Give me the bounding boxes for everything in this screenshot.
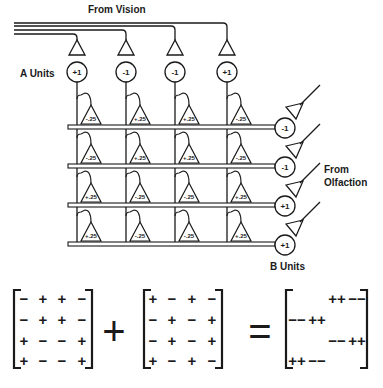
matrix-b-cell: +	[149, 352, 158, 369]
vision-input-line	[14, 34, 77, 40]
matrix-b-cell: −	[188, 311, 197, 328]
matrix-b-cell: +	[188, 290, 197, 307]
b-units-label: B Units	[270, 261, 305, 272]
vision-synapse-triangle-icon	[69, 40, 85, 55]
matrix-b-cell: +	[208, 332, 217, 349]
matrix-b-cell: +	[168, 311, 177, 328]
matrix-a-cell: −	[78, 290, 87, 307]
equals-operator: =	[248, 309, 271, 353]
matrix-result-cell: −−	[348, 290, 366, 307]
a-unit-value: +1	[72, 68, 82, 77]
olfaction-synapse-triangle-icon	[286, 220, 303, 236]
vision-input-line	[14, 30, 126, 40]
matrix-result-cell: −−	[328, 332, 346, 349]
matrix-a-cell: +	[78, 332, 87, 349]
matrix-a-cell: +	[58, 290, 67, 307]
matrix-a-cell: +	[39, 311, 48, 328]
matrix-b-cell: +	[168, 332, 177, 349]
b-unit-value: -1	[281, 163, 289, 172]
matrix-a-cell: −	[20, 311, 29, 328]
matrix-result-cell: ++	[288, 352, 306, 369]
synapse-branch	[175, 132, 189, 144]
matrix-a-cell: −	[58, 332, 67, 349]
matrix-b-cell: −	[208, 290, 217, 307]
synapse-weight: -.25	[86, 116, 97, 122]
matrix-a-cell: +	[78, 352, 87, 369]
matrix-a-cell: −	[58, 352, 67, 369]
synapse-weight: +.25	[183, 155, 196, 161]
plus-operator: +	[102, 309, 125, 353]
synapse-weight: -.25	[184, 233, 195, 239]
from-olfaction-label-line1: From	[324, 164, 349, 175]
synapse-weight: +.25	[235, 233, 248, 239]
olfaction-synapse-triangle-icon	[286, 103, 303, 119]
matrix-a-cell: +	[58, 311, 67, 328]
matrix-b-cell: +	[149, 290, 158, 307]
synapse-branch	[126, 171, 140, 183]
synapse-weight: +.25	[134, 155, 147, 161]
matrix-result-cell: ++	[348, 332, 366, 349]
synapse-weight: -.25	[135, 194, 146, 200]
matrix-b-cell: +	[208, 311, 217, 328]
synapse-weight: +.25	[85, 233, 98, 239]
b-unit-value: -1	[281, 124, 289, 133]
synapse-branch	[227, 93, 241, 105]
matrix-b-cell: +	[188, 352, 197, 369]
synapse-branch	[175, 171, 189, 183]
synapse-weight: +.25	[183, 116, 196, 122]
synapse-branch	[227, 210, 241, 222]
synapse-branch	[77, 132, 91, 144]
synapse-branch	[77, 93, 91, 105]
synapse-weight: +.25	[235, 194, 248, 200]
from-vision-label: From Vision	[88, 4, 146, 15]
matrix-result-cell: ++	[308, 311, 326, 328]
olfaction-input-line	[300, 202, 320, 222]
associative-network-diagram: From Vision A Units From Olfaction B Uni…	[0, 0, 383, 388]
synapse-weight: -.25	[184, 194, 195, 200]
matrix-b-cell: −	[168, 352, 177, 369]
synapse-weight: -.25	[135, 233, 146, 239]
synapse-branch	[227, 132, 241, 144]
b-unit-dendrite-bus	[68, 203, 275, 207]
vision-synapse-triangle-icon	[167, 40, 183, 55]
synapse-weight: +.25	[85, 194, 98, 200]
synapse-weight: -.25	[236, 116, 247, 122]
synapse-branch	[175, 210, 189, 222]
a-unit-value: -1	[122, 68, 130, 77]
synapse-branch	[227, 171, 241, 183]
matrix-a-cell: +	[39, 290, 48, 307]
synapse-branch	[126, 210, 140, 222]
olfaction-synapse-triangle-icon	[286, 181, 303, 197]
matrix-a-cell: +	[20, 352, 29, 369]
vision-synapse-triangle-icon	[219, 40, 235, 55]
matrix-b-cell: −	[149, 311, 158, 328]
synapse-weight: +.25	[134, 116, 147, 122]
matrix-a-cell: +	[20, 332, 29, 349]
synapse-branch	[77, 171, 91, 183]
b-unit-dendrite-bus	[68, 125, 275, 129]
matrix-b-cell: −	[149, 332, 158, 349]
synapse-weight: -.25	[86, 155, 97, 161]
olfaction-input-line	[300, 163, 320, 183]
matrix-a-cell: −	[20, 290, 29, 307]
synapse-weight: -.25	[236, 155, 247, 161]
a-units-label: A Units	[20, 68, 55, 79]
synapse-branch	[175, 93, 189, 105]
matrix-b-cell: −	[208, 352, 217, 369]
a-unit-value: -1	[171, 68, 179, 77]
a-unit-value: +1	[222, 68, 232, 77]
matrix-b-cell: −	[188, 332, 197, 349]
b-unit-value: +1	[280, 202, 290, 211]
matrix-result-cell: −−	[288, 311, 306, 328]
matrix-result-cell: −−	[308, 352, 326, 369]
from-olfaction-label-line2: Olfaction	[324, 177, 367, 188]
matrix-a-cell: −	[39, 352, 48, 369]
synapse-branch	[77, 210, 91, 222]
olfaction-synapse-triangle-icon	[286, 142, 303, 158]
olfaction-input-line	[300, 124, 320, 144]
synapse-branch	[126, 93, 140, 105]
olfaction-input-line	[300, 85, 320, 105]
matrix-a-cell: −	[78, 311, 87, 328]
vision-synapse-triangle-icon	[118, 40, 134, 55]
matrix-a-cell: −	[39, 332, 48, 349]
